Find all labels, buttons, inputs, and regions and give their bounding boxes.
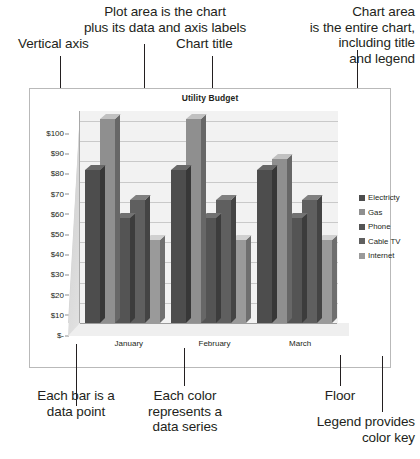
legend-item: Electricty [359,193,389,202]
legend-swatch-icon [359,253,365,259]
bar-side-face [186,165,191,323]
bar [257,170,272,323]
bar-side-face [317,195,322,323]
chart-title: Utility Budget [30,93,390,103]
bar-side-face [216,213,221,323]
y-axis-tick-label: $- [57,331,64,340]
floor-callout: Floor [300,388,380,404]
leader-line-legend [382,356,383,412]
y-axis-tick-mark [65,234,69,235]
leader-line-data-series [184,348,185,386]
horizontal-axis: JanuaryFebruaryMarch [80,339,342,353]
y-axis-tick-label: $20 [51,290,64,299]
legend-item: Gas [359,208,389,217]
legend-swatch-icon [359,195,365,201]
y-axis-tick-mark [65,194,69,195]
bar-side-face [231,195,236,323]
chart-title-callout: Chart title [176,36,286,52]
bar-side-face [287,154,292,323]
y-axis-tick-mark [65,133,69,134]
y-axis-tick-label: $10 [51,310,64,319]
bar-side-face [246,235,251,323]
data-point-callout: Each bar is a data point [16,388,136,419]
bar-side-face [115,114,120,323]
y-axis-tick-mark [65,214,69,215]
chart-legend: ElectrictyGasPhoneCable TVInternet [359,193,389,266]
legend-item-label: Electricty [368,193,400,202]
legend-item: Cable TV [359,237,389,246]
y-axis-tick-label: $70 [51,189,64,198]
bar-front-face [85,170,100,323]
y-axis-tick-mark [65,254,69,255]
bar-front-face [171,170,186,323]
leader-line-chart-area [357,50,358,90]
y-axis-tick-mark [65,173,69,174]
legend-swatch-icon [359,224,365,230]
y-axis-tick-label: $60 [51,209,64,218]
legend-swatch-icon [359,238,365,244]
y-axis-tick-mark [65,295,69,296]
chart-floor [68,323,349,337]
legend-item: Phone [359,222,389,231]
chart-area-callout: Chart area is the entire chart, includin… [275,4,415,66]
bar-side-face [160,235,165,323]
y-axis-tick-label: $30 [51,270,64,279]
data-series-callout: Each color represents a data series [134,388,236,435]
y-axis-tick-label: $80 [51,169,64,178]
y-axis-tick-label: $100 [46,129,64,138]
x-axis-category-label: March [289,339,311,348]
chart-area: Utility Budget $-$10$20$30$40$50$60$70$8… [29,88,391,368]
bars-layer [80,111,337,323]
y-axis-tick-label: $40 [51,250,64,259]
y-axis-tick-mark [65,274,69,275]
bar [85,170,100,323]
x-axis-category-label: January [115,339,143,348]
legend-item-label: Internet [368,251,394,260]
legend-item-label: Cable TV [368,237,400,246]
legend-item: Internet [359,251,389,260]
y-axis-tick-label: $50 [51,230,64,239]
legend-item-label: Gas [368,208,382,217]
legend-swatch-icon [359,209,365,215]
plot-area: $-$10$20$30$40$50$60$70$80$90$100 Januar… [34,111,356,361]
x-axis-category-label: February [198,339,230,348]
bar-front-face [257,170,272,323]
bar-side-face [332,235,337,323]
bar-side-face [272,165,277,323]
y-axis-tick-mark [65,153,69,154]
legend-callout: Legend provides color key [252,414,415,445]
bar-side-face [201,114,206,323]
vertical-axis: $-$10$20$30$40$50$60$70$80$90$100 [34,111,68,335]
bar-side-face [302,213,307,323]
bar-side-face [130,213,135,323]
vertical-axis-callout: Vertical axis [18,36,138,52]
y-axis-tick-label: $90 [51,149,64,158]
plot-area-callout: Plot area is the chart plus its data and… [65,4,265,35]
legend-item-label: Phone [368,222,391,231]
bar [171,170,186,323]
leader-line-floor [340,355,341,386]
y-axis-tick-mark [65,315,69,316]
chart-floor-edge [80,323,337,324]
bar-side-face [100,165,105,323]
bar-side-face [145,195,150,323]
